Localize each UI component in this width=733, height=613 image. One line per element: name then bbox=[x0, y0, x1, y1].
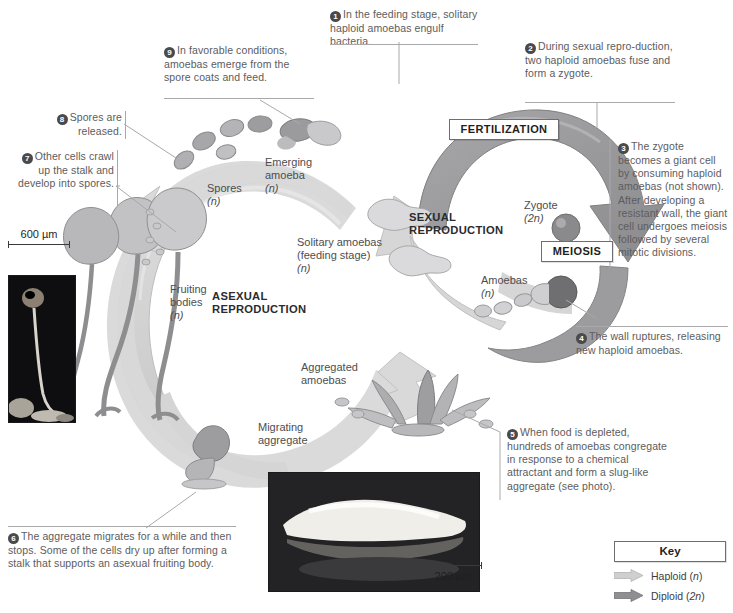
meiosis-stage-box: MEIOSIS bbox=[541, 241, 613, 262]
step-8-callout: 8Spores are released. bbox=[26, 111, 122, 138]
spores-ploidy: (n) bbox=[207, 195, 220, 207]
zygote-label: Zygote (2n) bbox=[524, 199, 558, 225]
key-label-diploid: Diploid (2n) bbox=[651, 590, 705, 602]
fruiting-bodies-line1: Fruiting bbox=[170, 283, 207, 296]
scale-bar-600um-label: 600 µm bbox=[8, 228, 70, 240]
migrating-aggregate-line2: aggregate bbox=[258, 434, 308, 447]
step-5-number: 5 bbox=[507, 429, 518, 440]
diploid-arrow-swatch-icon bbox=[614, 589, 644, 602]
amoebas-label: Amoebas (n) bbox=[481, 274, 527, 300]
step-5-callout: 5When food is depleted, hundreds of amoe… bbox=[507, 426, 671, 493]
step-3-callout: 3The zygote becomes a giant cell by cons… bbox=[618, 140, 730, 260]
spores-line1: Spores bbox=[207, 182, 242, 195]
solitary-amoebas-line2: (feeding stage) bbox=[297, 249, 382, 262]
step-2-number: 2 bbox=[525, 43, 536, 54]
step-8-number: 8 bbox=[57, 114, 68, 125]
step-6-overline bbox=[8, 526, 236, 527]
step-8-sideline bbox=[125, 111, 126, 139]
sexual-reproduction-line1: SEXUAL bbox=[409, 211, 503, 224]
meiosis-label: MEIOSIS bbox=[553, 245, 602, 257]
scale-bar-600um-rule bbox=[8, 241, 70, 248]
fruiting-body-photo-content bbox=[9, 276, 76, 423]
emerging-amoeba-label: Emerging amoeba (n) bbox=[265, 156, 312, 195]
scale-bar-200um-rule bbox=[424, 562, 482, 569]
key-row-haploid: Haploid (n) bbox=[614, 569, 726, 582]
emerging-amoeba-art bbox=[277, 117, 341, 150]
scale-bar-200um-label: 200 µm bbox=[424, 570, 482, 582]
fruiting-bodies-line2: bodies bbox=[170, 296, 207, 309]
aggregated-amoebas-line2: amoebas bbox=[301, 374, 358, 387]
asexual-reproduction-title: ASEXUAL REPRODUCTION bbox=[212, 290, 306, 316]
step-7-number: 7 bbox=[22, 153, 33, 164]
step-2-underline bbox=[525, 102, 675, 103]
aggregated-amoebas-art bbox=[335, 370, 493, 436]
fertilization-stage-box: FERTILIZATION bbox=[449, 119, 559, 140]
sexual-reproduction-line2: REPRODUCTION bbox=[409, 224, 503, 237]
step-4-number: 4 bbox=[576, 333, 587, 344]
step-3-number: 3 bbox=[618, 143, 629, 154]
step-4-callout: 4The wall ruptures, releasing new haploi… bbox=[576, 330, 728, 357]
step-7-callout: 7Other cells crawl up the stalk and deve… bbox=[16, 150, 114, 190]
asexual-reproduction-line2: REPRODUCTION bbox=[212, 303, 306, 316]
step-1-number: 1 bbox=[330, 11, 341, 22]
solitary-amoebas-label: Solitary amoebas (feeding stage) (n) bbox=[297, 236, 382, 275]
step-4-text: The wall ruptures, releasing new haploid… bbox=[576, 330, 721, 356]
step-3-text: The zygote becomes a giant cell by consu… bbox=[618, 140, 727, 258]
spores-art bbox=[171, 115, 273, 173]
step-1-callout: 1In the feeding stage, solitary haploid … bbox=[330, 8, 478, 48]
step-2-text: During sexual repro-duction, two haploid… bbox=[525, 40, 673, 79]
key-row-diploid: Diploid (2n) bbox=[614, 589, 726, 602]
emerging-amoeba-line1: Emerging bbox=[265, 156, 312, 169]
zygote-line1: Zygote bbox=[524, 199, 558, 212]
aggregated-amoebas-label: Aggregated amoebas bbox=[301, 361, 358, 387]
step-6-number: 6 bbox=[8, 533, 19, 544]
step-5-text: When food is depleted, hundreds of amoeb… bbox=[507, 426, 667, 492]
step-9-callout: 9In favorable conditions, amoebas emerge… bbox=[164, 44, 314, 84]
step-8-text: Spores are released. bbox=[70, 111, 122, 137]
step-2-callout: 2During sexual repro-duction, two haploi… bbox=[525, 40, 675, 80]
solitary-amoebas-line1: Solitary amoebas bbox=[297, 236, 382, 249]
figure-canvas: 600 µm 200 µm FERTILIZATION MEIOSIS SEXU… bbox=[0, 0, 733, 613]
emerging-amoeba-line2: amoeba bbox=[265, 169, 312, 182]
amoebas-ploidy: (n) bbox=[481, 287, 494, 299]
amoebas-line1: Amoebas bbox=[481, 274, 527, 287]
step-6-text: The aggregate migrates for a while and t… bbox=[8, 530, 231, 569]
fertilization-label: FERTILIZATION bbox=[461, 123, 548, 135]
sexual-reproduction-title: SEXUAL REPRODUCTION bbox=[409, 211, 503, 237]
solitary-amoebas-ploidy: (n) bbox=[297, 262, 310, 274]
emerging-amoeba-ploidy: (n) bbox=[265, 182, 278, 194]
step-1-underline bbox=[330, 44, 478, 45]
fruiting-bodies-ploidy: (n) bbox=[170, 309, 183, 321]
aggregated-amoebas-line1: Aggregated bbox=[301, 361, 358, 374]
step-1-text: In the feeding stage, solitary haploid a… bbox=[330, 8, 477, 47]
step-6-callout: 6The aggregate migrates for a while and … bbox=[8, 530, 236, 570]
scale-bar-600um: 600 µm bbox=[8, 228, 70, 248]
key-label-haploid: Haploid (n) bbox=[651, 570, 702, 582]
fruiting-bodies-label: Fruiting bodies (n) bbox=[170, 283, 207, 322]
step-9-text: In favorable conditions, amoebas emerge … bbox=[164, 44, 289, 83]
haploid-arrow-swatch-icon bbox=[614, 569, 644, 582]
step-7-sideline bbox=[117, 150, 118, 206]
migrating-aggregate-line1: Migrating bbox=[258, 421, 308, 434]
scale-bar-200um: 200 µm bbox=[424, 562, 482, 582]
step-4-overline bbox=[576, 326, 728, 327]
migrating-aggregate-art bbox=[182, 426, 229, 489]
asexual-reproduction-line1: ASEXUAL bbox=[212, 290, 306, 303]
key-title: Key bbox=[614, 541, 726, 562]
step-9-number: 9 bbox=[164, 47, 175, 58]
step-9-underline bbox=[164, 98, 314, 99]
migrating-aggregate-label: Migrating aggregate bbox=[258, 421, 308, 447]
zygote-ploidy: (2n) bbox=[524, 212, 544, 224]
spores-label: Spores (n) bbox=[207, 182, 242, 208]
fruiting-body-photograph bbox=[8, 275, 76, 423]
key-legend: Key Haploid (n) Diploid (2n) bbox=[614, 541, 726, 602]
